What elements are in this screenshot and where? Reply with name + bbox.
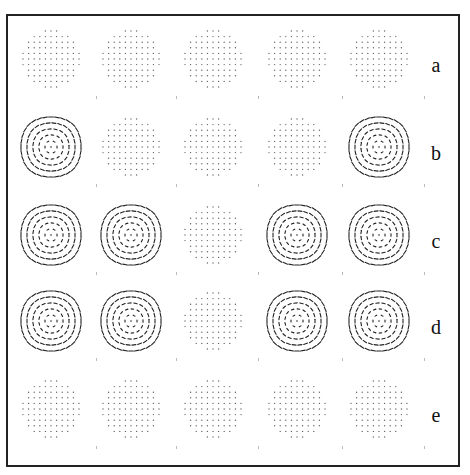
- dot-lattice-pattern: [180, 114, 246, 180]
- registration-tick: [258, 96, 259, 99]
- vortex-pattern: [346, 114, 412, 180]
- registration-tick: [258, 184, 259, 187]
- registration-tick: [176, 358, 177, 361]
- registration-tick: [424, 184, 425, 187]
- vortex-pattern: [264, 288, 330, 354]
- registration-tick: [96, 446, 97, 449]
- registration-tick: [176, 184, 177, 187]
- registration-tick: [176, 446, 177, 449]
- dot-lattice-pattern: [180, 376, 246, 442]
- registration-tick: [424, 358, 425, 361]
- registration-tick: [342, 272, 343, 275]
- vortex-pattern: [18, 114, 84, 180]
- registration-tick: [342, 184, 343, 187]
- dot-lattice-pattern: [98, 376, 164, 442]
- registration-tick: [96, 96, 97, 99]
- dot-lattice-pattern: [98, 114, 164, 180]
- row-label-e: e: [426, 404, 446, 427]
- dot-lattice-pattern: [180, 26, 246, 92]
- row-label-d: d: [426, 316, 446, 339]
- row-label-a: a: [426, 54, 446, 77]
- dot-lattice-pattern: [264, 114, 330, 180]
- registration-tick: [342, 446, 343, 449]
- dot-lattice-pattern: [346, 376, 412, 442]
- figure-frame: abcde: [6, 14, 460, 467]
- vortex-pattern: [346, 288, 412, 354]
- vortex-pattern: [264, 202, 330, 268]
- dot-lattice-pattern: [18, 26, 84, 92]
- registration-tick: [424, 446, 425, 449]
- dot-lattice-pattern: [346, 26, 412, 92]
- dot-lattice-pattern: [98, 26, 164, 92]
- vortex-pattern: [98, 202, 164, 268]
- vortex-pattern: [18, 288, 84, 354]
- dot-lattice-pattern: [264, 376, 330, 442]
- cropped-caption-line: [0, 0, 470, 4]
- registration-tick: [342, 358, 343, 361]
- registration-tick: [96, 184, 97, 187]
- registration-tick: [258, 272, 259, 275]
- registration-tick: [342, 96, 343, 99]
- vortex-pattern: [18, 202, 84, 268]
- registration-tick: [176, 96, 177, 99]
- registration-tick: [176, 272, 177, 275]
- row-label-c: c: [426, 230, 446, 253]
- registration-tick: [258, 446, 259, 449]
- dot-lattice-pattern: [180, 288, 246, 354]
- registration-tick: [258, 358, 259, 361]
- registration-tick: [96, 358, 97, 361]
- dot-lattice-pattern: [18, 376, 84, 442]
- dot-lattice-pattern: [180, 202, 246, 268]
- registration-tick: [424, 272, 425, 275]
- registration-tick: [424, 96, 425, 99]
- vortex-pattern: [346, 202, 412, 268]
- vortex-pattern: [98, 288, 164, 354]
- row-label-b: b: [426, 142, 446, 165]
- dot-lattice-pattern: [264, 26, 330, 92]
- registration-tick: [96, 272, 97, 275]
